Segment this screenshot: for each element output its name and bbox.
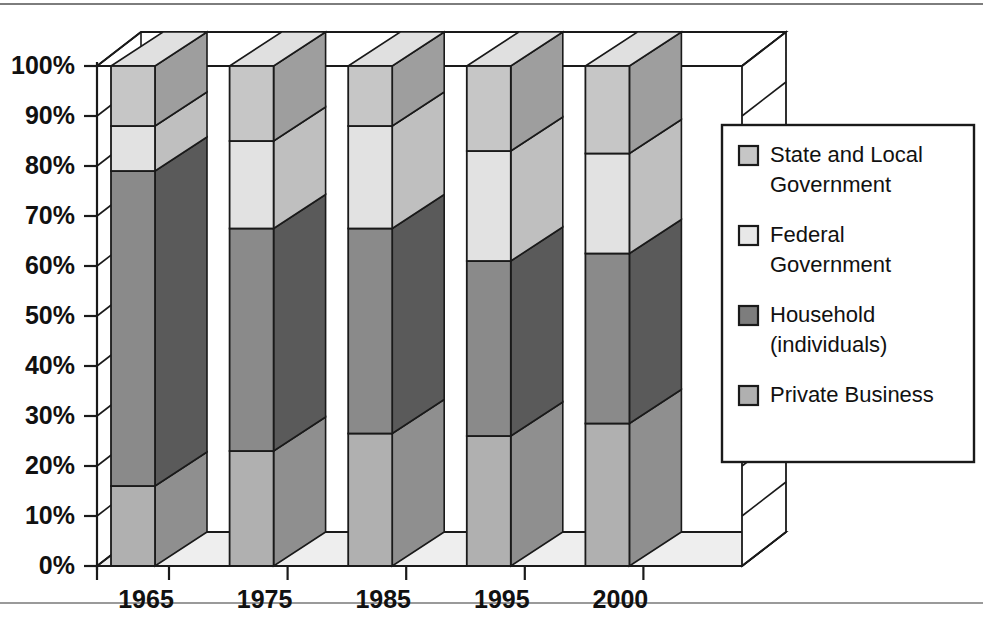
- x-tick-label-1975: 1975: [237, 585, 293, 613]
- segment-front-face: [348, 229, 392, 434]
- legend-label-line1: Federal: [770, 222, 845, 247]
- y-tick-label-40: 40%: [25, 351, 75, 379]
- segment-side-face: [511, 227, 563, 436]
- segment-front-face: [585, 254, 629, 424]
- legend-label-line2: Government: [770, 252, 891, 277]
- y-tick-label-100: 100%: [11, 51, 75, 79]
- y-axis-tick-labels: 100%90%80%70%60%50%40%30%20%10%0%: [11, 51, 75, 579]
- y-tick-label-30: 30%: [25, 401, 75, 429]
- bar-segment-1965-household-individuals: [111, 137, 207, 486]
- segment-front-face: [467, 66, 511, 151]
- legend-swatch-icon: [739, 306, 758, 325]
- legend-label-line1: State and Local: [770, 142, 923, 167]
- segment-front-face: [348, 126, 392, 229]
- segment-front-face: [467, 151, 511, 261]
- bar-1965: [111, 32, 207, 566]
- chart-legend: State and LocalGovernmentFederalGovernme…: [722, 125, 974, 462]
- bar-1975: [230, 32, 326, 566]
- legend-label-line2: (individuals): [770, 332, 887, 357]
- bar-segment-1975-household-individuals: [230, 195, 326, 452]
- legend-label-line2: Government: [770, 172, 891, 197]
- segment-front-face: [585, 66, 629, 154]
- segment-front-face: [348, 434, 392, 567]
- segment-front-face: [111, 486, 155, 566]
- segment-front-face: [585, 424, 629, 567]
- segment-front-face: [111, 171, 155, 486]
- y-tick-label-70: 70%: [25, 201, 75, 229]
- legend-label-line1: Private Business: [770, 382, 934, 407]
- legend-swatch-icon: [739, 226, 758, 245]
- y-tick-label-20: 20%: [25, 451, 75, 479]
- segment-front-face: [230, 229, 274, 452]
- segment-front-face: [585, 154, 629, 254]
- bar-1995: [467, 32, 563, 566]
- segment-front-face: [230, 66, 274, 141]
- y-tick-label-80: 80%: [25, 151, 75, 179]
- segment-front-face: [467, 436, 511, 566]
- y-tick-label-90: 90%: [25, 101, 75, 129]
- y-tick-label-60: 60%: [25, 251, 75, 279]
- y-tick-label-10: 10%: [25, 501, 75, 529]
- bar-2000: [585, 32, 681, 566]
- x-tick-label-2000: 2000: [593, 585, 649, 613]
- y-tick-label-50: 50%: [25, 301, 75, 329]
- segment-front-face: [230, 451, 274, 566]
- legend-swatch-icon: [739, 146, 758, 165]
- x-tick-label-1985: 1985: [355, 585, 411, 613]
- x-tick-label-1965: 1965: [118, 585, 174, 613]
- y-tick-label-0: 0%: [39, 551, 75, 579]
- chart-page: 100%90%80%70%60%50%40%30%20%10%0% 196519…: [0, 0, 983, 637]
- segment-front-face: [111, 66, 155, 126]
- bar-group: [111, 32, 681, 566]
- segment-side-face: [155, 137, 207, 486]
- segment-front-face: [467, 261, 511, 436]
- bar-1985: [348, 32, 444, 566]
- x-axis-tick-labels: 19651975198519952000: [118, 585, 648, 613]
- stacked-bar-chart: 100%90%80%70%60%50%40%30%20%10%0% 196519…: [0, 0, 983, 637]
- legend-label-line1: Household: [770, 302, 875, 327]
- legend-swatch-icon: [739, 386, 758, 405]
- segment-front-face: [111, 126, 155, 171]
- x-tick-label-1995: 1995: [474, 585, 530, 613]
- segment-front-face: [230, 141, 274, 229]
- segment-side-face: [274, 195, 326, 452]
- bar-segment-1985-household-individuals: [348, 195, 444, 434]
- segment-side-face: [629, 220, 681, 424]
- segment-side-face: [392, 195, 444, 434]
- segment-front-face: [348, 66, 392, 126]
